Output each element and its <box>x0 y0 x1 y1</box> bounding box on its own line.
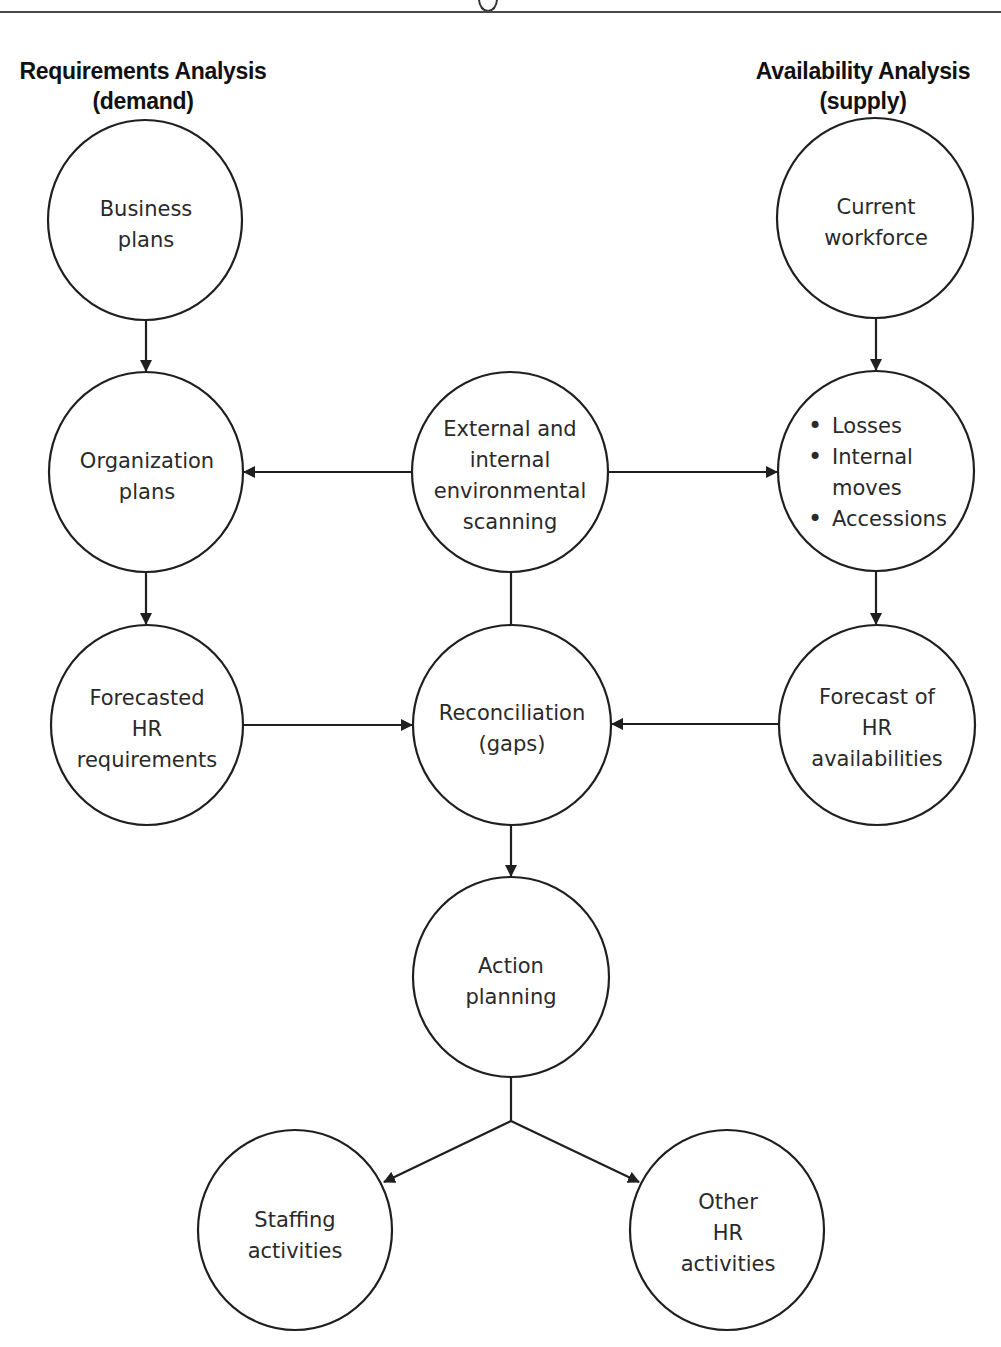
label-line: Staffing <box>248 1205 343 1236</box>
label-line: Action <box>465 951 556 982</box>
workforce-changes-list: Losses Internal moves Accessions <box>808 411 947 535</box>
label-line: HR <box>811 713 942 744</box>
label-line: environmental <box>434 476 586 507</box>
label-line: plans <box>100 225 193 256</box>
label-line: Forecasted <box>77 683 218 714</box>
current-workforce-label: Current workforce <box>824 192 928 254</box>
label-line: plans <box>80 477 214 508</box>
list-item-losses: Losses <box>808 411 947 442</box>
label-line: activities <box>248 1236 343 1267</box>
label-line: workforce <box>824 223 928 254</box>
forecast-availabilities-label: Forecast of HR availabilities <box>811 682 942 775</box>
label-line: HR <box>77 714 218 745</box>
label-line: requirements <box>77 745 218 776</box>
label-line: External and <box>434 414 586 445</box>
label-line: planning <box>465 982 556 1013</box>
organization-plans-label: Organization plans <box>80 446 214 508</box>
business-plans-label: Business plans <box>100 194 193 256</box>
list-item-moves-continuation: moves <box>808 473 947 504</box>
label-line: Organization <box>80 446 214 477</box>
forecasted-requirements-label: Forecasted HR requirements <box>77 683 218 776</box>
action-planning-label: Action planning <box>465 951 556 1013</box>
label-line: Forecast of <box>811 682 942 713</box>
reconciliation-label: Reconciliation (gaps) <box>439 698 585 760</box>
arrow-branch-to-other <box>511 1121 639 1182</box>
label-line: internal <box>434 445 586 476</box>
hr-planning-diagram: Requirements Analysis (demand) Availabil… <box>0 0 1001 1347</box>
label-line: (gaps) <box>439 729 585 760</box>
label-line: HR <box>681 1218 776 1249</box>
staffing-activities-label: Staffing activities <box>248 1205 343 1267</box>
label-line: Other <box>681 1187 776 1218</box>
list-item-internal: Internal <box>808 442 947 473</box>
arrow-branch-to-staffing <box>384 1121 511 1182</box>
environmental-scanning-label: External and internal environmental scan… <box>434 414 586 538</box>
label-line: availabilities <box>811 744 942 775</box>
label-line: Current <box>824 192 928 223</box>
other-hr-activities-label: Other HR activities <box>681 1187 776 1280</box>
label-line: Reconciliation <box>439 698 585 729</box>
label-line: scanning <box>434 507 586 538</box>
label-line: activities <box>681 1249 776 1280</box>
list-item-accessions: Accessions <box>808 504 947 535</box>
label-line: Business <box>100 194 193 225</box>
